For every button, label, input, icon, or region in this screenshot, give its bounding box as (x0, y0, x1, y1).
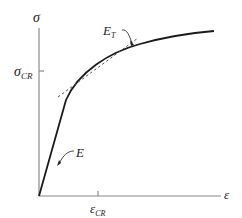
tangent-line (58, 38, 138, 97)
elastic-modulus-pointer (59, 151, 74, 164)
stress-strain-diagram: σ ε σCR εCR ET E (0, 0, 242, 218)
tangent-modulus-arrowhead-icon (130, 40, 134, 46)
tangent-modulus-label: ET (102, 23, 116, 40)
epsilon-cr-label: εCR (90, 201, 105, 218)
y-axis-label: σ (33, 10, 41, 25)
sigma-cr-label: σCR (14, 64, 33, 81)
stress-strain-curve (39, 31, 214, 196)
elastic-modulus-label: E (75, 145, 84, 160)
x-axis-label: ε (224, 187, 230, 202)
